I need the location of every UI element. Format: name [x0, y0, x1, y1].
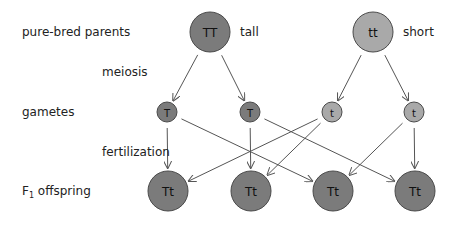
phenotype-label-short: short: [403, 25, 434, 39]
step-label-fertilization: fertilization: [102, 145, 170, 159]
arrows-group: [167, 55, 415, 181]
arrow-G3-F2: [267, 123, 320, 175]
gamete-genotype-text: t: [412, 108, 416, 119]
gamete-node: T: [157, 102, 177, 122]
parent-genotype-text: TT: [202, 26, 218, 40]
gamete-node: t: [404, 102, 424, 122]
parent-genotype-text: tt: [368, 26, 378, 40]
offspring-genotype-text: Tt: [408, 185, 421, 199]
gamete-node: T: [240, 102, 260, 122]
arrow-P2-G4: [385, 55, 408, 100]
arrow-P1-G2: [222, 55, 245, 100]
arrow-P1-G1: [173, 55, 198, 101]
offspring-node: Tt: [395, 171, 435, 211]
parent-node: tt: [353, 12, 393, 52]
gamete-genotype-text: T: [246, 108, 254, 119]
offspring-node: Tt: [148, 171, 188, 211]
offspring-f: F: [22, 184, 29, 198]
row-label-offspring: F1 offspring: [22, 184, 91, 203]
offspring-text: offspring: [34, 184, 91, 198]
offspring-genotype-text: Tt: [244, 185, 257, 199]
offspring-genotype-text: Tt: [326, 185, 339, 199]
row-label-parents: pure-bred parents: [22, 25, 130, 39]
step-label-meiosis: meiosis: [102, 65, 148, 79]
arrow-G2-F2: [250, 128, 251, 168]
phenotype-label-tall: tall: [240, 25, 259, 39]
nodes-group: TTttTTttTtTtTtTt: [148, 12, 435, 211]
arrow-G4-F4: [414, 128, 415, 168]
gamete-genotype-text: t: [330, 108, 334, 119]
offspring-node: Tt: [313, 171, 353, 211]
gamete-node: t: [322, 102, 342, 122]
arrow-G4-F3: [349, 123, 402, 175]
gamete-genotype-text: T: [163, 108, 171, 119]
arrow-P2-G3: [338, 55, 361, 100]
parent-node: TT: [190, 12, 230, 52]
row-label-gametes: gametes: [22, 105, 74, 119]
offspring-genotype-text: Tt: [161, 185, 174, 199]
offspring-node: Tt: [231, 171, 271, 211]
